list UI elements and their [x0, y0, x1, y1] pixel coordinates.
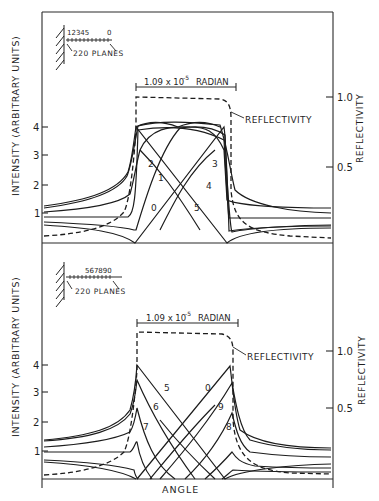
bottom-tick-3: 3	[33, 387, 39, 398]
bottom-tick-2: 2	[33, 417, 39, 428]
top-inset-planes-left: 12345	[67, 29, 89, 37]
top-inset-label: 220 PLANES	[73, 49, 124, 58]
top-y2-axis-label: REFLECTIVITY	[355, 94, 365, 163]
top-label-1: 1	[158, 173, 164, 183]
bottom-width-unit: RADIAN	[198, 313, 231, 323]
bottom-label-8: 8	[226, 422, 232, 432]
x-axis-label: ANGLE	[162, 484, 199, 495]
bottom-rtick-1: 1.0	[337, 346, 353, 357]
top-y-axis-label: INTENSITY (ARBITRARY UNITS)	[10, 36, 21, 196]
top-reflectivity-label: REFLECTIVITY	[245, 115, 312, 125]
top-width-exponent: -5	[183, 74, 189, 81]
top-left-ticks: 4 3 2 1	[33, 122, 48, 219]
top-rtick-05: 0.5	[337, 162, 353, 173]
top-right-ticks: 1.0 0.5	[326, 92, 353, 173]
bottom-width-annotation: 1.09 x 10 -5 RADIAN	[137, 310, 238, 327]
bottom-y2-axis-label: REFLECTIVITY	[357, 336, 367, 405]
bottom-label-0: 0	[205, 383, 211, 393]
top-label-4: 4	[206, 181, 212, 191]
bottom-width-value: 1.09 x 10	[146, 313, 186, 323]
bottom-intensity-curves	[44, 365, 331, 479]
bottom-label-6: 6	[153, 402, 159, 412]
bottom-label-7: 7	[143, 422, 149, 432]
top-inset-planes-right: 0	[107, 29, 111, 37]
top-label-2: 2	[148, 159, 154, 169]
bottom-crystal-inset: 567890 220 PLANES	[56, 262, 126, 307]
top-crystal-inset: 12345 0 220 PLANES	[56, 25, 124, 70]
bottom-right-ticks: 1.0 0.5	[326, 346, 353, 414]
bottom-panel: 4 3 2 1 1.0 0.5	[10, 262, 367, 495]
top-panel: 4 3 2 1 1.0 0.5	[10, 25, 365, 243]
bottom-left-ticks: 4 3 2 1	[33, 360, 48, 457]
top-intensity-curves	[44, 122, 331, 243]
top-tick-1: 1	[34, 208, 40, 219]
bottom-tick-4: 4	[33, 360, 39, 371]
bottom-inset-planes: 567890	[85, 267, 112, 275]
top-rtick-1: 1.0	[337, 92, 353, 103]
top-tick-3: 3	[33, 150, 39, 161]
bottom-width-exponent: -5	[185, 310, 191, 317]
top-width-value: 1.09 x 10	[144, 77, 184, 87]
frame	[42, 12, 333, 488]
top-width-annotation: 1.09 x 10 -5 RADIAN	[136, 74, 236, 91]
bottom-label-9: 9	[218, 402, 224, 412]
top-width-unit: RADIAN	[196, 77, 229, 87]
top-label-3: 3	[212, 159, 218, 169]
bottom-label-5: 5	[164, 383, 170, 393]
bottom-rtick-05: 0.5	[337, 403, 353, 414]
top-tick-4: 4	[33, 122, 39, 133]
top-tick-2: 2	[33, 180, 39, 191]
bottom-y-axis-label: INTENSITY (ARBITRARY UNITS)	[10, 277, 21, 437]
top-label-5: 5	[194, 203, 200, 213]
bottom-inset-label: 220 PLANES	[75, 287, 126, 296]
top-label-0: 0	[151, 203, 157, 213]
figure: 4 3 2 1 1.0 0.5	[0, 0, 379, 501]
bottom-reflectivity-label: REFLECTIVITY	[247, 352, 314, 362]
bottom-tick-1: 1	[34, 446, 40, 457]
